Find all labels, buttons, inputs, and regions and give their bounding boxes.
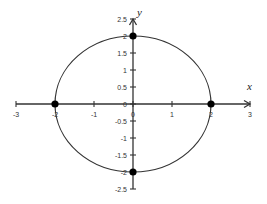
data-point xyxy=(129,168,136,175)
x-tick-label: -3 xyxy=(13,111,19,118)
y-tick-label: 1 xyxy=(123,67,127,74)
y-tick-label: -1 xyxy=(121,135,127,142)
y-tick-label: 1.5 xyxy=(117,50,127,57)
x-tick-label: 3 xyxy=(248,111,252,118)
x-tick-label: 1 xyxy=(170,111,174,118)
x-axis-title: x xyxy=(246,80,252,92)
y-tick-label: -0.5 xyxy=(115,118,127,125)
data-point xyxy=(207,100,214,107)
y-tick-label: 2.5 xyxy=(117,16,127,23)
y-tick-label: 0 xyxy=(123,101,127,108)
x-tick-label: -1 xyxy=(91,111,97,118)
y-tick-label: -2.5 xyxy=(115,186,127,193)
y-axis-title: y xyxy=(136,6,142,18)
chart: -3-2-10123 2.521.510.5-0.5-1-1.5-2-2.50 … xyxy=(0,0,267,204)
data-point xyxy=(129,32,136,39)
y-tick-label: -1.5 xyxy=(115,152,127,159)
y-tick-label: 0.5 xyxy=(117,84,127,91)
data-point xyxy=(51,100,58,107)
